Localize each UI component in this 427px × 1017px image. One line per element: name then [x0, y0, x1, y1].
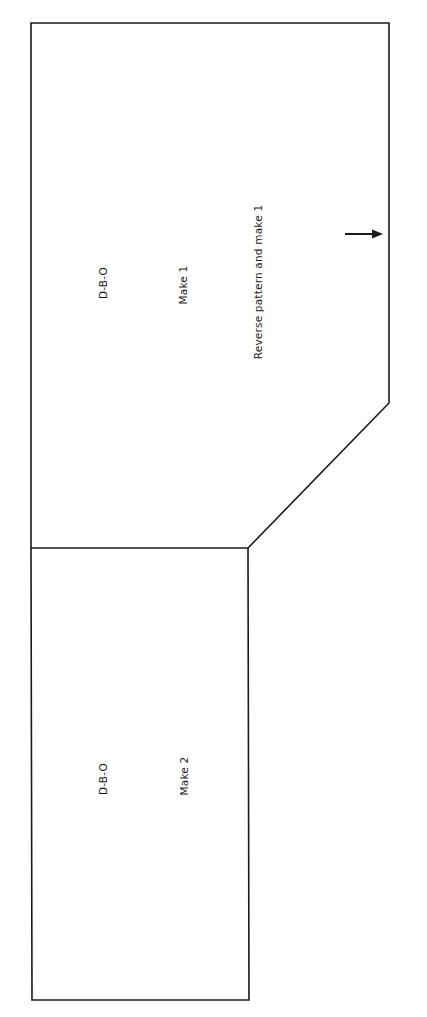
lower-piece-outline	[31, 548, 249, 1000]
lower-piece-fabric-label: D-B-O	[97, 763, 109, 795]
upper-piece-quantity-label: Make 1	[177, 266, 189, 305]
pattern-outline	[0, 0, 427, 1017]
upper-piece-outline	[31, 23, 389, 548]
upper-piece-fabric-label: D-B-O	[97, 267, 109, 299]
lower-piece-quantity-label: Make 2	[178, 757, 190, 796]
upper-piece-instruction-label: Reverse pattern and make 1	[252, 205, 264, 360]
grain-arrow-icon	[345, 230, 383, 239]
